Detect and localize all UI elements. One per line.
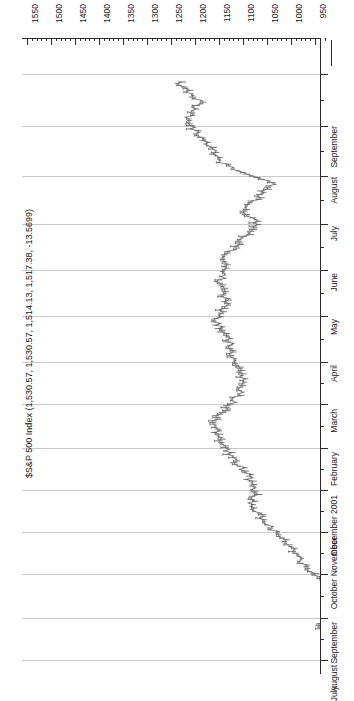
value-axis-label: 1250	[175, 4, 184, 23]
value-axis-label: 1000	[295, 4, 304, 23]
time-tick-major	[321, 618, 328, 619]
time-tick-minor	[321, 511, 324, 512]
time-axis-line	[320, 38, 321, 674]
time-axis-label: September	[330, 622, 339, 664]
value-axis-label: 1300	[151, 4, 160, 23]
time-tick-major	[321, 176, 328, 177]
chart-title: $S&P 500 Index (1,530.57, 1,530.57, 1,51…	[24, 209, 34, 478]
time-tick-major	[321, 126, 328, 127]
time-tick-minor	[321, 383, 324, 384]
value-axis-label: 1500	[55, 4, 64, 23]
plot-area	[22, 38, 320, 678]
time-tick-minor	[321, 553, 324, 554]
time-tick-major	[321, 574, 328, 575]
value-axis-label: 1550	[31, 4, 40, 23]
time-tick-major	[321, 270, 328, 271]
time-axis-label: February	[330, 452, 339, 486]
value-axis-label: 1200	[199, 4, 208, 23]
time-axis-label: November	[330, 537, 339, 576]
time-tick-minor	[321, 596, 324, 597]
time-axis-label: September	[330, 126, 339, 168]
time-axis-label: October	[330, 579, 339, 609]
time-axis-label: July	[330, 226, 339, 241]
time-tick-minor	[321, 200, 324, 201]
time-tick-major	[321, 448, 328, 449]
time-axis: SeptemberAugustJulyJuneMayAprilMarchFebr…	[318, 38, 354, 678]
time-axis-label: March	[330, 409, 339, 433]
value-axis-label: 1450	[79, 4, 88, 23]
axis-corner-stub	[331, 40, 332, 66]
value-axis-label: 1050	[271, 4, 280, 23]
time-tick-major	[321, 316, 328, 317]
time-tick-minor	[321, 293, 324, 294]
time-tick-major	[321, 532, 328, 533]
time-axis-label: June	[330, 273, 339, 291]
time-axis-label: April	[330, 365, 339, 382]
value-axis-label: 1400	[103, 4, 112, 23]
time-tick-major	[321, 490, 328, 491]
time-tick-minor	[321, 639, 324, 640]
time-tick-major	[321, 362, 328, 363]
time-tick-major	[321, 74, 328, 75]
time-tick-major	[321, 224, 328, 225]
time-axis-label: August	[330, 177, 339, 203]
time-tick-major	[321, 404, 328, 405]
value-axis-label: 1150	[223, 4, 232, 22]
time-tick-minor	[321, 339, 324, 340]
value-axis-label: 1350	[127, 4, 136, 23]
time-tick-major	[321, 660, 328, 661]
time-tick-minor	[321, 247, 324, 248]
time-tick-minor	[321, 100, 324, 101]
time-tick-minor	[321, 151, 324, 152]
time-tick-minor	[321, 469, 324, 470]
time-axis-label: May	[330, 319, 339, 335]
value-axis-label: 1100	[247, 4, 256, 22]
time-axis-label: July	[330, 686, 339, 701]
price-series	[22, 38, 320, 678]
time-tick-minor	[321, 426, 324, 427]
value-axis-label: 950	[319, 4, 328, 18]
